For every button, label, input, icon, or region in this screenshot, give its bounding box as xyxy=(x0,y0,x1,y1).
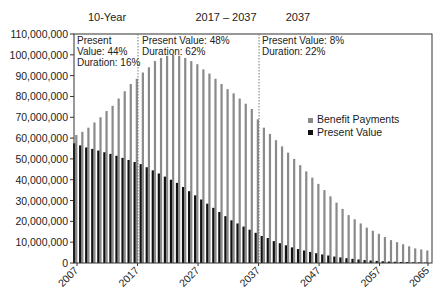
bar-benefit-payments xyxy=(360,223,362,263)
legend: Benefit Payments Present Value xyxy=(308,113,399,138)
bar-present-value xyxy=(345,258,347,263)
bar-benefit-payments xyxy=(99,117,101,263)
bar-benefit-payments xyxy=(239,99,241,263)
bar-present-value xyxy=(176,183,178,263)
bar-present-value xyxy=(230,220,232,263)
bar-benefit-payments xyxy=(305,171,307,263)
bar-benefit-payments xyxy=(214,79,216,263)
y-tick-label: 100,000,000 xyxy=(10,49,69,61)
svg-text:Present Value: 48%: Present Value: 48% xyxy=(142,35,230,46)
bar-present-value xyxy=(327,256,329,263)
bar-benefit-payments xyxy=(105,111,107,263)
bar-present-value xyxy=(170,180,172,263)
bar-present-value xyxy=(97,151,99,263)
bar-benefit-payments xyxy=(226,89,228,263)
bar-present-value xyxy=(109,154,111,263)
bar-present-value xyxy=(146,167,148,263)
bar-present-value xyxy=(182,187,184,263)
bar-benefit-payments xyxy=(366,228,368,263)
bar-benefit-payments xyxy=(414,248,416,263)
bar-benefit-payments xyxy=(178,56,180,263)
bar-present-value xyxy=(339,257,341,263)
x-tick-label: 2065 xyxy=(406,264,431,289)
header-2037: 2037 xyxy=(286,11,310,23)
bar-benefit-payments xyxy=(354,219,356,263)
bar-present-value xyxy=(273,241,275,263)
annotation-10-year: Present Value: 44% Duration: 16% xyxy=(77,35,140,68)
x-axis: 2007201720272037204720572065 xyxy=(55,263,431,289)
bar-present-value xyxy=(194,195,196,263)
bar-benefit-payments xyxy=(118,99,120,263)
bar-present-value xyxy=(188,191,190,263)
bar-present-value xyxy=(321,254,323,263)
bar-present-value xyxy=(212,208,214,263)
bar-benefit-payments xyxy=(233,93,235,263)
y-tick-label: 0 xyxy=(62,257,68,269)
bar-benefit-payments xyxy=(299,165,301,263)
bar-present-value xyxy=(158,173,160,263)
bar-benefit-payments xyxy=(287,153,289,263)
header-10-year: 10-Year xyxy=(88,11,126,23)
bar-present-value xyxy=(164,177,166,263)
bar-benefit-payments xyxy=(124,91,126,263)
x-tick-label: 2027 xyxy=(176,264,201,289)
bar-benefit-payments xyxy=(384,237,386,263)
bar-present-value xyxy=(297,249,299,263)
bar-present-value xyxy=(285,245,287,263)
y-tick-label: 10,000,000 xyxy=(15,236,68,248)
bar-present-value xyxy=(218,212,220,263)
bar-present-value xyxy=(255,233,257,263)
bar-benefit-payments xyxy=(390,240,392,263)
x-tick-label: 2007 xyxy=(55,264,80,289)
bar-present-value xyxy=(291,247,293,263)
y-axis: 010,000,00020,000,00030,000,00040,000,00… xyxy=(10,28,74,269)
bar-present-value xyxy=(315,253,317,263)
bar-benefit-payments xyxy=(112,106,114,263)
x-tick-label: 2047 xyxy=(297,264,322,289)
svg-text:Duration: 16%: Duration: 16% xyxy=(77,57,140,68)
bar-benefit-payments xyxy=(378,234,380,263)
x-tick-label: 2017 xyxy=(116,264,141,289)
y-tick-label: 110,000,000 xyxy=(10,28,68,40)
bar-benefit-payments xyxy=(396,242,398,263)
bar-benefit-payments xyxy=(93,122,95,263)
bar-present-value xyxy=(357,259,359,263)
bar-benefit-payments xyxy=(166,56,168,263)
bar-benefit-payments xyxy=(196,64,198,263)
legend-swatch-present-icon xyxy=(308,130,313,135)
period-dividers xyxy=(138,34,259,263)
y-tick-label: 70,000,000 xyxy=(15,111,68,123)
bar-benefit-payments xyxy=(323,190,325,263)
bar-benefit-payments xyxy=(317,184,319,263)
bar-benefit-payments xyxy=(372,231,374,263)
bar-benefit-payments xyxy=(142,73,144,263)
bar-benefit-payments xyxy=(281,146,283,263)
bar-benefit-payments xyxy=(426,251,428,263)
bar-benefit-payments xyxy=(275,140,277,263)
bar-benefit-payments xyxy=(130,84,132,263)
bar-benefit-payments xyxy=(348,215,350,263)
bar-present-value xyxy=(85,147,87,263)
svg-text:Duration: 62%: Duration: 62% xyxy=(142,46,205,57)
bar-present-value xyxy=(140,164,142,263)
y-tick-label: 80,000,000 xyxy=(15,90,68,102)
bar-benefit-payments xyxy=(251,109,253,263)
bar-benefit-payments xyxy=(202,69,204,263)
bar-benefit-payments xyxy=(220,84,222,263)
bar-present-value xyxy=(279,243,281,263)
legend-present-value: Present Value xyxy=(317,126,382,138)
x-tick-label: 2037 xyxy=(237,264,262,289)
bar-present-value xyxy=(127,160,129,263)
bar-present-value xyxy=(249,230,251,263)
bar-benefit-payments xyxy=(293,159,295,263)
bar-present-value xyxy=(134,162,136,263)
bar-present-value xyxy=(351,259,353,263)
bar-benefit-payments xyxy=(87,128,89,263)
svg-text:Value: 44%: Value: 44% xyxy=(77,46,128,57)
bar-present-value xyxy=(267,238,269,263)
bar-present-value xyxy=(236,223,238,263)
y-tick-label: 20,000,000 xyxy=(15,215,68,227)
annotation-2017-2037: Present Value: 48% Duration: 62% xyxy=(142,35,230,57)
bar-present-value xyxy=(200,200,202,263)
bar-chart: 010,000,00020,000,00030,000,00040,000,00… xyxy=(0,0,444,299)
